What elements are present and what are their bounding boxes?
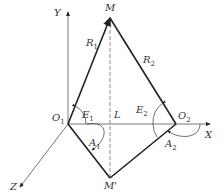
diagram-svg xyxy=(0,0,223,194)
z-axis xyxy=(20,124,68,187)
angle-a1-label: A1 xyxy=(89,138,101,151)
point-o2-label: O2 xyxy=(178,111,191,124)
point-o1-label: O1 xyxy=(52,113,65,126)
point-l-label: L xyxy=(114,110,121,120)
angle-arc-e2 xyxy=(153,103,163,137)
angle-a2-label: A2 xyxy=(165,139,177,152)
z-axis-label: Z xyxy=(10,182,17,192)
segment-o1-mprime xyxy=(68,124,110,178)
x-axis-label: X xyxy=(205,130,212,140)
point-m-prime-label: M' xyxy=(104,181,117,191)
angle-e2-label: E2 xyxy=(136,105,148,118)
segment-r2-label: R2 xyxy=(143,55,155,68)
y-axis-label: Y xyxy=(54,8,61,18)
diagram-canvas: Y X Z M M' O1 O2 L R1 R2 E1 A1 E2 A2 xyxy=(0,0,223,194)
segment-r1-label: R1 xyxy=(86,38,98,51)
point-m-label: M xyxy=(105,3,115,13)
angle-e1-label: E1 xyxy=(82,110,94,123)
